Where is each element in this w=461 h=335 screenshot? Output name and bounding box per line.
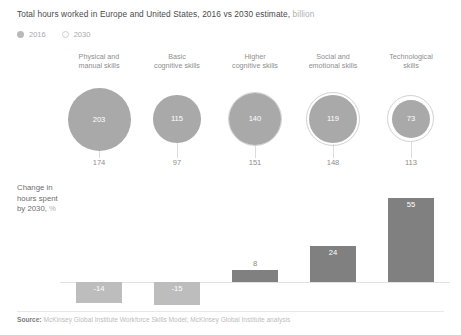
bubble-2016-circle: 119 [309, 95, 357, 143]
change-label-unit: % [49, 204, 56, 213]
legend-item-2030[interactable]: 2030 [62, 30, 91, 39]
bubble-2016-circle: 140 [229, 93, 281, 145]
category-header-technological: Technological skills [372, 52, 450, 70]
filled-circle-icon [17, 31, 24, 38]
change-bar-value: 24 [329, 248, 337, 257]
change-bar-value: -14 [94, 284, 105, 293]
category-header-basic: Basic cognitive skills [138, 52, 216, 70]
category-header-social: Social and emotional skills [294, 52, 372, 70]
bubble-cell: 73 [372, 80, 450, 158]
footer-divider [17, 311, 444, 312]
legend-item-2016[interactable]: 2016 [17, 30, 46, 39]
bubble-2016-value: 140 [249, 114, 262, 123]
category-line: manual skills [60, 61, 138, 70]
change-label-line3-text: by 2030, [17, 204, 47, 213]
change-bar[interactable]: -15 [154, 282, 200, 305]
bar-cell: 24 [294, 178, 372, 308]
bubble-connector-stem [411, 141, 412, 158]
bar-cell: -15 [138, 178, 216, 308]
bubble-2016-value: 115 [171, 114, 183, 123]
legend: 2016 2030 [17, 28, 106, 40]
change-bar[interactable]: -14 [76, 282, 122, 303]
bubble-2030-value: 113 [372, 158, 450, 167]
source-label: Source: [17, 316, 42, 323]
bubble-2016-circle: 73 [392, 100, 430, 138]
bubble-connector-stem [333, 144, 334, 158]
bubble-connector-stem [255, 144, 256, 158]
bubble-cell: 140 [216, 80, 294, 158]
change-bar-value: 8 [253, 259, 257, 268]
change-block-label: Change in hours spent by 2030, % [17, 183, 58, 215]
change-bar-value: -15 [172, 284, 183, 293]
page-title-unit: billion [293, 9, 315, 19]
bubble-2030-value: 174 [60, 158, 138, 167]
change-bar[interactable] [232, 270, 278, 282]
source-text: McKinsey Global Institute Workforce Skil… [43, 316, 290, 323]
change-bar-chart: -14-1582455 [60, 178, 450, 308]
bubble-2030-value: 97 [138, 158, 216, 167]
bubble-2030-value: 151 [216, 158, 294, 167]
page-title: Total hours worked in Europe and United … [17, 9, 314, 19]
bubble-2030-value: 148 [294, 158, 372, 167]
bar-cell: -14 [60, 178, 138, 308]
bar-cell: 8 [216, 178, 294, 308]
source-note: Source: McKinsey Global Institute Workfo… [17, 316, 290, 323]
infographic-root: Total hours worked in Europe and United … [0, 0, 461, 335]
category-header-physical: Physical and manual skills [60, 52, 138, 70]
category-line: Basic [138, 52, 216, 61]
bubble-connector-stem [177, 141, 178, 158]
bubble-2016-circle: 203 [68, 88, 131, 151]
category-line: emotional skills [294, 61, 372, 70]
change-bar[interactable]: 55 [388, 198, 434, 282]
bubble-2016-value: 203 [93, 115, 106, 124]
category-line: cognitive skills [216, 61, 294, 70]
open-circle-icon [62, 31, 69, 38]
bar-cell: 55 [372, 178, 450, 308]
category-line: cognitive skills [138, 61, 216, 70]
page-title-text: Total hours worked in Europe and United … [17, 9, 290, 19]
category-line: Higher [216, 52, 294, 61]
legend-label-2016: 2016 [29, 30, 46, 39]
change-label-line3: by 2030, % [17, 204, 58, 215]
change-label-line2: hours spent [17, 194, 58, 205]
category-line: Physical and [60, 52, 138, 61]
category-header-row: Physical and manual skills Basic cogniti… [60, 52, 450, 70]
category-header-higher: Higher cognitive skills [216, 52, 294, 70]
bubble-cell: 203 [60, 80, 138, 158]
value-2030-row: 17497151148113 [60, 158, 450, 167]
change-bar-value: 55 [407, 200, 415, 209]
bubble-cell: 115 [138, 80, 216, 158]
bubble-chart-row: 20311514011973 [60, 80, 450, 158]
bubble-cell: 119 [294, 80, 372, 158]
category-line: skills [372, 61, 450, 70]
legend-label-2030: 2030 [74, 30, 91, 39]
category-line: Social and [294, 52, 372, 61]
change-label-line1: Change in [17, 183, 58, 194]
category-line: Technological [372, 52, 450, 61]
bubble-2016-circle: 115 [153, 95, 200, 142]
bubble-2016-value: 119 [327, 114, 339, 123]
bubble-2016-value: 73 [407, 114, 415, 123]
change-bar[interactable]: 24 [310, 246, 356, 282]
